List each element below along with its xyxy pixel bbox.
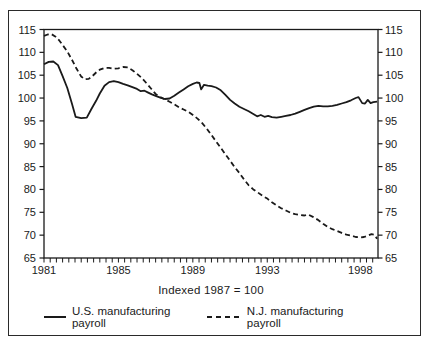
legend-label-nj: N.J. manufacturing payroll xyxy=(247,305,380,329)
y-axis-label-left: 95 xyxy=(24,115,36,127)
y-axis-label-left: 90 xyxy=(24,138,36,150)
legend-label-us: U.S. manufacturing payroll xyxy=(72,305,207,329)
legend: U.S. manufacturing payroll N.J. manufact… xyxy=(44,305,380,329)
y-axis-label-right: 100 xyxy=(385,92,403,104)
y-axis-label-left: 65 xyxy=(24,252,36,264)
y-axis-label-right: 70 xyxy=(385,229,397,241)
y-axis-label-right: 65 xyxy=(385,252,397,264)
y-axis-label-left: 115 xyxy=(18,24,36,36)
y-axis-label-left: 80 xyxy=(24,183,36,195)
y-axis-label-left: 70 xyxy=(24,229,36,241)
y-axis-label-left: 85 xyxy=(24,161,36,173)
legend-item-nj: N.J. manufacturing payroll xyxy=(207,305,380,329)
series-line-us xyxy=(44,62,377,119)
solid-line-sample-icon xyxy=(44,316,66,318)
x-axis-label: 1998 xyxy=(348,264,372,276)
y-axis-label-right: 115 xyxy=(385,24,403,36)
y-axis-label-right: 105 xyxy=(385,69,403,81)
y-axis-label-right: 75 xyxy=(385,206,397,218)
x-axis-label: 1981 xyxy=(32,264,56,276)
y-axis-label-right: 80 xyxy=(385,183,397,195)
y-axis-label-right: 110 xyxy=(385,46,403,58)
y-axis-label-left: 75 xyxy=(24,206,36,218)
x-axis-label: 1985 xyxy=(106,264,130,276)
y-axis-label-right: 85 xyxy=(385,161,397,173)
y-axis-label-left: 105 xyxy=(18,69,36,81)
legend-item-us: U.S. manufacturing payroll xyxy=(44,305,207,329)
x-axis-ticks: 19811985198919931998 xyxy=(32,258,373,276)
plot-border xyxy=(44,30,378,259)
y-axis-label-left: 100 xyxy=(18,92,36,104)
y-axis-label-right: 95 xyxy=(385,115,397,127)
x-axis-label: 1993 xyxy=(255,264,279,276)
y-axis-label-right: 90 xyxy=(385,138,397,150)
chart-caption: Indexed 1987 = 100 xyxy=(44,284,378,296)
series-line-nj xyxy=(44,34,377,239)
dashed-line-sample-icon xyxy=(207,316,241,318)
x-axis-label: 1989 xyxy=(181,264,205,276)
y-axis-ticks: 6565707075758080858590909595100100105105… xyxy=(18,24,404,265)
y-axis-label-left: 110 xyxy=(18,46,36,58)
